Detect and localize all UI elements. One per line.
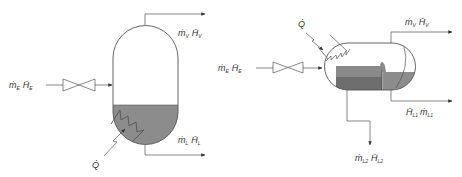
right-valve-icon [273,62,303,73]
left-heat-label: Q̇ [92,160,99,170]
right-liquid1-label: H̄L1ṁL1 [406,107,433,118]
left-liquid-label: ṁLH̄L [178,135,201,146]
right-heat-label: Q̇ [298,19,305,29]
right-heat-input-arrow-icon [306,33,323,50]
right-flash-drum-diagram: Q̇ ṁEH̄E ṁVH̄V H̄L1ṁL1 ṁL2H̄L2 [218,17,452,164]
left-flash-drum-diagram: Q̇ ṁEH̄E ṁVH̄V ṁLH̄L [9,14,205,170]
right-vapor-label: ṁVH̄V [405,17,429,28]
left-vapor-outlet-line [145,14,205,25]
left-liquid-outlet-line [145,145,205,155]
right-feed-label: ṁEH̄E [218,63,242,74]
right-coil-lead-1 [318,47,328,59]
right-liquid1-outlet-line [391,90,452,101]
right-liquid2-label: ṁL2H̄L2 [355,153,383,164]
right-liquid2-outlet-line [347,90,370,145]
right-vapor-outlet-line [391,32,452,43]
left-liquid-region [110,105,182,150]
flash-drum-diagrams: Q̇ ṁEH̄E ṁVH̄V ṁLH̄L [0,0,462,177]
left-feed-label: ṁEH̄E [9,80,33,91]
left-vapor-label: ṁVH̄V [178,28,202,39]
left-valve-icon [63,79,95,91]
